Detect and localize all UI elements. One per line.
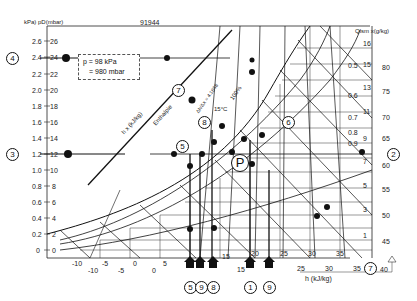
tick: -10 xyxy=(72,260,82,267)
tick: 1.0 xyxy=(32,167,42,174)
tick: 0 xyxy=(36,247,40,254)
tick: 10 xyxy=(50,167,58,174)
tick: 4 xyxy=(52,215,56,222)
tick: 13 xyxy=(363,84,371,91)
enthalpy-axis-label: h (kJ/kg) xyxy=(305,275,332,282)
marker-3: 3 xyxy=(6,148,19,161)
tick: 25 xyxy=(297,265,305,272)
left-axis-title: kPa) pD(mbar) xyxy=(24,19,63,25)
tick: 15 xyxy=(222,253,230,260)
pressure-kpa: p = 98 kPa xyxy=(83,57,135,67)
tick: 0 xyxy=(133,260,137,267)
tick: -10 xyxy=(88,267,98,274)
tick: 30 xyxy=(325,265,333,272)
tick: 0.8 xyxy=(32,183,42,190)
tick: 14 xyxy=(50,135,58,142)
tick: 0 xyxy=(52,247,56,254)
point-p: P xyxy=(231,154,249,172)
tick: 80 xyxy=(382,64,390,71)
tick: -5 xyxy=(102,260,108,267)
tick: 0 xyxy=(152,267,156,274)
marker-7-bottom: 7 xyxy=(364,262,377,275)
marker-4: 4 xyxy=(6,52,19,65)
tick: 12 xyxy=(50,151,58,158)
tick: 2.0 xyxy=(32,87,42,94)
tick: 26 xyxy=(50,38,58,45)
tick: 15 xyxy=(363,61,371,68)
tick: 7 xyxy=(363,158,367,165)
tick: 18 xyxy=(50,103,58,110)
tick: -5 xyxy=(118,267,124,274)
tick: 0.8 xyxy=(348,129,358,136)
pressure-box: p = 98 kPa = 980 mbar xyxy=(78,54,140,80)
tick: 24 xyxy=(50,54,58,61)
tick: 2.4 xyxy=(32,54,42,61)
marker-5-top: 5 xyxy=(176,140,189,153)
tick: 1 xyxy=(363,232,367,239)
temp-15-label: 15°C xyxy=(214,106,227,112)
tick: 3 xyxy=(363,206,367,213)
tick: 20 xyxy=(251,250,259,257)
tick: 2.6 xyxy=(32,38,42,45)
tick: 2.2 xyxy=(32,71,42,78)
tick: 2 xyxy=(52,231,56,238)
tick: 1.8 xyxy=(32,103,42,110)
bottom-marker-1: 1 xyxy=(244,281,257,294)
bottom-marker-8: 8 xyxy=(207,281,220,294)
tick: 35 xyxy=(336,250,344,257)
tick: 5 xyxy=(363,182,367,189)
tick: 40 xyxy=(380,266,388,273)
tick: 1.6 xyxy=(32,119,42,126)
tick: 9 xyxy=(363,135,367,142)
marker-2: 2 xyxy=(387,148,400,161)
tick: 5 xyxy=(163,260,167,267)
tick: 60 xyxy=(382,162,390,169)
tick: 15 xyxy=(237,266,245,273)
tick: 30 xyxy=(308,250,316,257)
tick: 1.2 xyxy=(32,151,42,158)
tick: 50 xyxy=(382,212,390,219)
tick: 75 xyxy=(382,88,390,95)
tick: 0.6 xyxy=(348,92,358,99)
tick: 0.7 xyxy=(348,114,358,121)
marker-6: 6 xyxy=(282,116,295,129)
tick: 55 xyxy=(382,186,390,193)
mollier-chart xyxy=(0,0,417,301)
tick: 0.5 xyxy=(348,62,358,69)
tick: 25 xyxy=(280,250,288,257)
bottom-marker-9b: 9 xyxy=(263,281,276,294)
tick: 8 xyxy=(52,183,56,190)
tick: 11 xyxy=(363,108,370,115)
tick: 65 xyxy=(382,135,390,142)
tick: 70 xyxy=(382,114,390,121)
tick: 20 xyxy=(50,87,58,94)
marker-7-top: 7 xyxy=(172,84,185,97)
tick: 0.6 xyxy=(32,199,42,206)
tick: 45 xyxy=(382,238,390,245)
tick: 35 xyxy=(353,265,361,272)
tick: 16 xyxy=(50,119,58,126)
tick: 0.4 xyxy=(32,215,42,222)
tick: 6 xyxy=(52,199,56,206)
tick: 22 xyxy=(50,71,58,78)
chart-code: 91944 xyxy=(140,19,159,26)
tick: 0.2 xyxy=(32,231,42,238)
marker-8-top: 8 xyxy=(198,116,211,129)
pressure-mbar: = 980 mbar xyxy=(83,67,135,77)
tick: 16 xyxy=(363,40,371,47)
tick: 1.4 xyxy=(32,135,42,142)
tick: 0.9 xyxy=(348,140,358,147)
right-axis-title: Qlsm x(g/kg) xyxy=(355,28,389,34)
